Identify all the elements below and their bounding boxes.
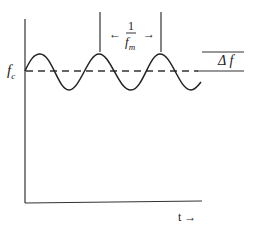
- period-right-arrow: →: [143, 27, 155, 42]
- period-numerator: 1: [128, 19, 134, 34]
- time-axis-label: t →: [178, 210, 196, 225]
- frequency-wave: [25, 54, 201, 90]
- carrier-frequency-label: fc: [7, 62, 15, 81]
- x-axis: [25, 201, 202, 203]
- period-denominator: fm: [125, 34, 135, 52]
- period-left-arrow: ←: [109, 27, 121, 42]
- deviation-label: Δ f: [218, 53, 233, 69]
